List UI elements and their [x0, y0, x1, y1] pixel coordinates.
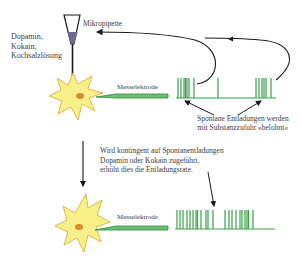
spike-train-bottom — [175, 210, 275, 229]
contingent-caption: Wird kontingent auf Spontanentladungen D… — [100, 146, 224, 175]
electrode-top-icon — [96, 94, 168, 98]
feedback-arrows — [97, 32, 289, 84]
neuron-top-icon — [49, 73, 103, 120]
diagram-canvas: Dopamin, Kokain, Kochsalzlösung Mikropip… — [0, 0, 300, 273]
substances-label: Dopamin, Kokain, Kochsalzlösung — [11, 32, 62, 61]
electrode-bottom-icon — [95, 226, 168, 230]
caption-arrows — [185, 101, 261, 115]
spontaneous-caption: Spontane Entladungen werden mit Substanz… — [197, 114, 289, 132]
spike-train-top — [176, 78, 276, 98]
electrode-bottom-label: Messelektrode — [117, 213, 158, 223]
pipette-label: Mikropipette — [83, 19, 122, 29]
electrode-top-label: Messelektrode — [117, 83, 158, 93]
neuron-bottom-icon — [55, 194, 110, 252]
contingent-arrow — [208, 172, 214, 206]
